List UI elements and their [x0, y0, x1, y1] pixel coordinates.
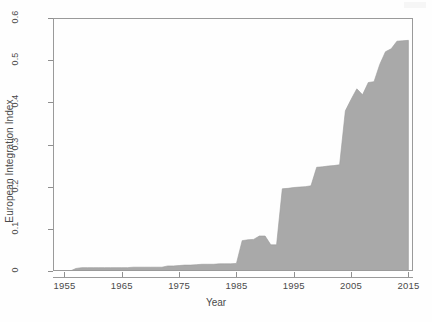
y-tick-label: 0.1: [10, 221, 20, 234]
y-tick-label: 0.2: [10, 179, 20, 192]
x-axis: Year 1955196519751985199520052015: [0, 271, 432, 322]
x-tick-mark: [351, 272, 352, 277]
scan-artifact: [404, 2, 426, 8]
x-tick-mark: [64, 272, 65, 277]
x-tick-mark: [236, 272, 237, 277]
x-tick-label: 1955: [53, 280, 75, 291]
x-tick-mark: [179, 272, 180, 277]
x-axis-line: [53, 277, 413, 278]
y-axis-title-text: European Integration Index: [4, 99, 15, 222]
x-tick-label: 1985: [225, 280, 247, 291]
x-tick-label: 2005: [340, 280, 362, 291]
plot-frame: [53, 18, 413, 271]
y-tick-label: 0.5: [10, 53, 20, 66]
x-tick-label: 2015: [397, 280, 419, 291]
x-tick-label: 1965: [111, 280, 133, 291]
y-tick-label: 0.4: [10, 95, 20, 108]
plot-area: [53, 18, 413, 271]
x-axis-title: Year: [0, 297, 432, 308]
x-tick-mark: [408, 272, 409, 277]
x-tick-mark: [294, 272, 295, 277]
x-tick-mark: [122, 272, 123, 277]
y-tick-label: 0.3: [10, 137, 20, 150]
chart-figure: European Integration Index 00.10.20.30.4…: [0, 0, 432, 322]
x-tick-label: 1995: [283, 280, 305, 291]
y-tick-label: 0.6: [10, 10, 20, 23]
x-tick-label: 1975: [168, 280, 190, 291]
